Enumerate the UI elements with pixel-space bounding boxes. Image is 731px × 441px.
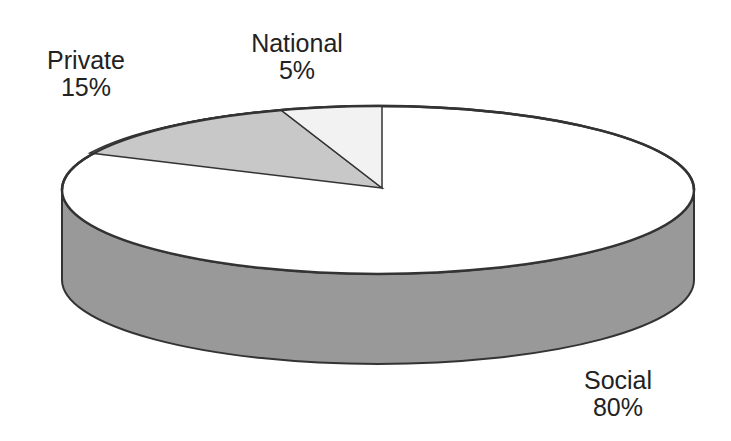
label-social: Social 80% [584,367,652,421]
label-national-name: National [251,30,343,57]
label-social-pct: 80% [584,394,652,421]
label-national-pct: 5% [251,57,343,84]
label-private-name: Private [47,47,125,74]
label-private-pct: 15% [47,74,125,101]
label-social-name: Social [584,367,652,394]
label-national: National 5% [251,30,343,84]
label-private: Private 15% [47,47,125,101]
